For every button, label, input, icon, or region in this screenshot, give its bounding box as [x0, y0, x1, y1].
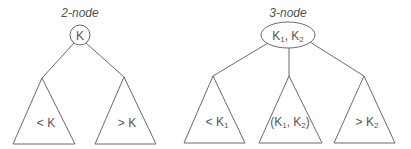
subtree-greater-than-k-label: > K	[118, 116, 136, 130]
edge-left	[213, 43, 268, 76]
subtree-greater-than-k	[95, 77, 156, 144]
subtree-between-k1-k2-label: (K1, K2)	[270, 115, 310, 130]
two-node-title: 2-node	[60, 6, 99, 20]
subtree-less-than-k1	[184, 76, 245, 143]
edge-left	[42, 43, 74, 78]
subtree-greater-than-k2	[334, 76, 395, 143]
two-node-key: K	[76, 29, 84, 43]
subtree-greater-than-k2-label: > K2	[356, 115, 379, 130]
edge-right	[86, 43, 124, 77]
subtree-less-than-k-label: < K	[37, 116, 55, 130]
three-node-group: 3-node K1, K2 < K1 (K1, K2) > K2	[184, 6, 395, 143]
diagram-svg: 2-node K < K > K 3-node K1, K2 < K1 (K1,…	[0, 0, 411, 149]
edge-right	[310, 42, 364, 76]
three-node-title: 3-node	[269, 6, 307, 20]
subtree-less-than-k	[13, 78, 75, 144]
subtree-less-than-k1-label: < K1	[206, 115, 229, 130]
two-node-group: 2-node K < K > K	[13, 6, 156, 144]
subtree-between-k1-k2	[259, 76, 322, 143]
tree-node-diagram: 2-node K < K > K 3-node K1, K2 < K1 (K1,…	[0, 0, 411, 149]
